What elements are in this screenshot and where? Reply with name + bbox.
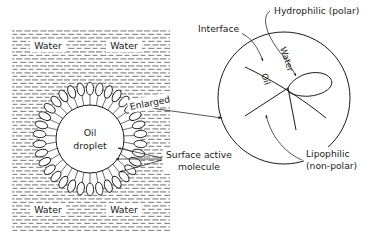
detail-oil-label: Oil (259, 72, 272, 86)
oil-droplet-label-line1: Oil (84, 127, 97, 138)
water-label-bottom-right: Water (106, 203, 142, 216)
water-label-text: Water (110, 40, 138, 51)
water-label-text: Water (34, 40, 62, 51)
surface-active-label-line1: Surface active (166, 149, 232, 160)
droplet-interface-circle (56, 105, 124, 173)
hydrophilic-head-loop (288, 73, 332, 97)
water-label-top-left: Water (30, 39, 66, 52)
lipophilic-tail (245, 88, 288, 116)
water-label-top-right: Water (106, 39, 142, 52)
interface-curve (245, 67, 326, 118)
lipophilic-leader (266, 115, 302, 160)
hydrophilic-label: Hydrophilic (polar) (274, 5, 359, 16)
lipophilic-label-line1: Lipophilic (306, 148, 350, 159)
oil-droplet-label-line2: droplet (73, 140, 107, 151)
hydrophilic-callout: Hydrophilic (polar) (266, 4, 374, 76)
lipophilic-label-line2: (non-polar) (306, 160, 357, 171)
interface-callout: Interface (196, 22, 263, 61)
water-label-text: Water (110, 204, 138, 215)
water-label-bottom-left: Water (30, 203, 66, 216)
emulsion-figure: Oil droplet Water Water Water Water (0, 0, 375, 242)
surface-active-label-line2: molecule (178, 161, 220, 172)
interface-label: Interface (198, 23, 239, 34)
detail-water-label: Water (278, 45, 296, 73)
interface-leader (241, 33, 263, 61)
water-label-text: Water (34, 204, 62, 215)
